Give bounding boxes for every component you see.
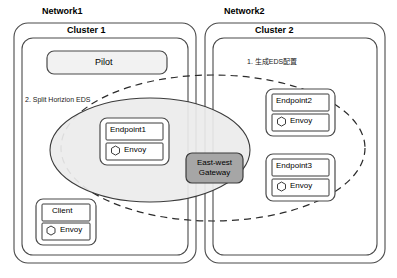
network1-label: Network1	[42, 7, 83, 17]
hexagon-icon	[278, 182, 286, 191]
endpoint1-label: Endpoint1	[110, 126, 146, 135]
endpoint2-label: Endpoint2	[276, 97, 312, 106]
endpoint3-envoy-label: Envoy	[290, 182, 312, 191]
diagram-shapes	[0, 0, 397, 278]
hexagon-icon	[112, 146, 120, 155]
east-west-gateway-line2: Gateway	[199, 168, 231, 177]
hexagon-icon	[278, 117, 286, 126]
cluster2-label: Cluster 2	[255, 26, 294, 36]
client-envoy-label: Envoy	[60, 226, 82, 235]
endpoint3-label: Endpoint3	[276, 162, 312, 171]
generate-eds-config-note: 1. 生成EDS配置	[247, 58, 297, 66]
east-west-gateway-line1: East-west	[197, 158, 232, 167]
pilot-label: Pilot	[95, 58, 113, 68]
east-west-gateway-label: East-west Gateway	[186, 158, 243, 178]
endpoint1-envoy-label: Envoy	[124, 146, 146, 155]
endpoint2-envoy-label: Envoy	[290, 117, 312, 126]
split-horizon-eds-note: 2. Split Horizion EDS	[25, 96, 90, 104]
client-label: Client	[52, 207, 72, 216]
hexagon-icon	[47, 226, 55, 235]
cluster1-label: Cluster 1	[67, 26, 106, 36]
network2-label: Network2	[224, 7, 265, 17]
diagram-canvas: Network1 Cluster 1 Pilot 2. Split Horizi…	[0, 0, 397, 278]
